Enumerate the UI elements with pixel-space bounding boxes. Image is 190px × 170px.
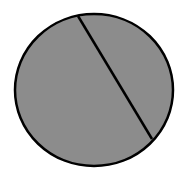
circle-diagram xyxy=(0,0,190,170)
circle xyxy=(15,14,173,166)
